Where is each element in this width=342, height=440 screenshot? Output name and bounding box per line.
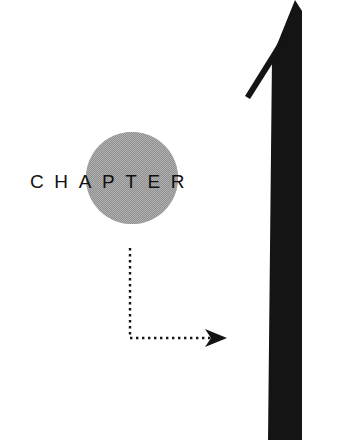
chapter-opener-page: CHAPTER [0,0,342,440]
large-arrow-shaft [268,0,302,440]
chapter-opener-artwork [0,0,342,440]
chapter-wordmark: CHAPTER [30,171,195,193]
